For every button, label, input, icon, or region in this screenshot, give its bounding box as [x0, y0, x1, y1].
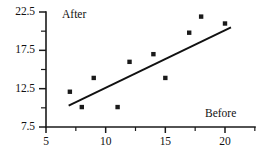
data-point-marker [127, 60, 131, 64]
y-tick-label: 22.5 [0, 5, 35, 17]
data-point-marker [163, 76, 167, 80]
y-tick-label: 17.5 [0, 43, 35, 55]
data-point-marker [199, 14, 203, 18]
x-tick-label: 5 [31, 135, 61, 147]
x-tick-label: 15 [150, 135, 180, 147]
trend-line [69, 27, 231, 105]
data-point-marker [187, 31, 191, 35]
y-tick-label: 12.5 [0, 82, 35, 94]
x-tick-label: 20 [210, 135, 240, 147]
x-tick-label: 10 [91, 135, 121, 147]
data-point-marker [80, 105, 84, 109]
y-tick-label: 7.5 [0, 120, 35, 132]
scatter-plot-figure: 7.512.517.522.55101520 After Before [0, 0, 264, 160]
y-axis-title: After [62, 8, 86, 20]
data-point-marker [68, 90, 72, 94]
data-point-marker [151, 52, 155, 56]
data-point-marker [223, 21, 227, 25]
data-point-marker [115, 105, 119, 109]
regression-line [69, 27, 231, 105]
data-point-marker [92, 76, 96, 80]
x-axis-title: Before [205, 107, 236, 119]
